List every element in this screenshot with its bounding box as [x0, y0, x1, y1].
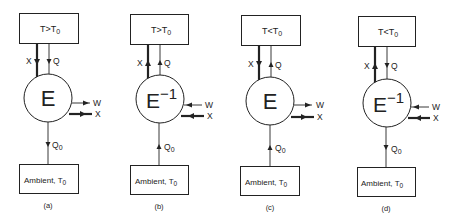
arrow-up-icon	[268, 145, 273, 150]
panel-d: T<T0 X Q E−1 W X Q0 Ambient, T0 (d)	[358, 17, 441, 214]
svg-text:X: X	[317, 112, 323, 122]
svg-text:W: W	[93, 98, 101, 108]
svg-text:X: X	[26, 56, 32, 66]
panel-caption: (a)	[43, 201, 53, 210]
svg-text:Q: Q	[53, 56, 60, 66]
svg-text:X: X	[95, 109, 101, 119]
svg-text:X: X	[137, 58, 143, 68]
arrow-up-icon	[372, 63, 378, 69]
svg-text:Ambient, T0: Ambient, T0	[245, 178, 288, 188]
panel-caption: (d)	[381, 204, 391, 213]
arrow-right-icon	[83, 101, 89, 106]
svg-text:Q0: Q0	[164, 142, 175, 153]
arrow-up-icon	[158, 60, 163, 65]
panel-caption: (c)	[266, 203, 275, 212]
svg-text:W: W	[432, 102, 440, 112]
svg-text:Q: Q	[164, 58, 171, 68]
svg-text:Ambient, T0: Ambient, T0	[361, 179, 404, 189]
svg-text:W: W	[316, 100, 324, 110]
svg-text:Q0: Q0	[391, 144, 402, 155]
arrow-down-icon	[47, 59, 52, 64]
svg-text:Q: Q	[391, 61, 398, 71]
svg-text:W: W	[205, 100, 213, 110]
arrow-right-icon	[305, 103, 311, 108]
arrow-up-icon	[145, 60, 151, 66]
panel-caption: (b)	[154, 202, 164, 211]
arrow-down-icon	[46, 142, 51, 147]
svg-text:X: X	[433, 113, 439, 123]
arrow-left-icon	[413, 105, 419, 110]
svg-text:X: X	[207, 111, 213, 121]
arrow-up-icon	[269, 62, 274, 67]
arrow-down-icon	[34, 59, 40, 65]
svg-text:Q0: Q0	[52, 140, 63, 151]
svg-text:Ambient, T0: Ambient, T0	[24, 176, 67, 186]
panel-a: T>T0 X Q E W X Q0 Ambient, T0 (a)	[20, 14, 102, 211]
exergy-diagram: T>T0 X Q E W X Q0 Ambient, T0 (a) T>T0 X	[0, 0, 460, 222]
arrow-up-icon	[157, 144, 162, 149]
arrow-left-icon	[188, 113, 194, 119]
arrow-down-icon	[384, 145, 389, 150]
svg-text:Q: Q	[275, 60, 282, 70]
arrow-down-icon	[385, 63, 390, 68]
svg-text:E: E	[263, 89, 278, 114]
svg-text:E: E	[41, 86, 56, 111]
svg-text:X: X	[364, 61, 370, 71]
arrow-down-icon	[256, 61, 262, 67]
arrow-right-icon	[301, 114, 307, 120]
arrow-left-icon	[186, 103, 192, 108]
panel-b: T>T0 X Q E−1 W X Q0 Ambient, T0 (b)	[131, 15, 214, 212]
arrow-left-icon	[415, 115, 421, 121]
panel-c: T<T0 X Q E W X Q0 Ambient, T0 (c)	[241, 16, 325, 213]
svg-text:Ambient, T0: Ambient, T0	[135, 177, 178, 187]
svg-text:X: X	[248, 59, 254, 69]
svg-text:Q0: Q0	[275, 143, 286, 154]
arrow-right-icon	[80, 111, 86, 117]
